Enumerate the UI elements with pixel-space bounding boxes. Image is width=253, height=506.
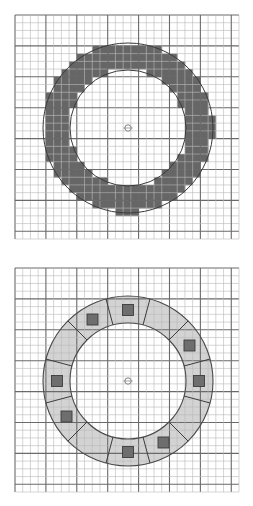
rasterized-annulus-diagram <box>0 0 253 253</box>
segment-square <box>123 447 134 458</box>
annulus-raster-cell <box>108 193 116 201</box>
annulus-raster-cell <box>162 54 170 62</box>
annulus-raster-cell <box>177 85 185 93</box>
annulus-raster-cell <box>162 169 170 177</box>
annulus-raster-cell <box>200 131 208 139</box>
annulus-raster-cell <box>85 69 93 77</box>
annulus-raster-cell <box>154 54 162 62</box>
annulus-raster-cell <box>100 185 108 193</box>
segment-square <box>61 411 72 422</box>
annulus-raster-cell <box>200 139 208 147</box>
annulus-raster-cell <box>108 54 116 62</box>
segment-square <box>52 376 63 387</box>
annulus-raster-cell <box>185 146 193 154</box>
annulus-raster-cell <box>146 185 154 193</box>
annulus-raster-cell <box>123 54 131 62</box>
annulus-raster-cell <box>146 193 154 201</box>
annulus-raster-cell <box>139 185 147 193</box>
panel-top <box>0 0 253 253</box>
annulus-raster-cell <box>61 146 69 154</box>
annulus-raster-cell <box>200 100 208 108</box>
annulus-raster-cell <box>54 108 62 116</box>
annulus-raster-cell <box>185 139 193 147</box>
annulus-raster-cell <box>115 54 123 62</box>
annulus-raster-cell <box>185 169 193 177</box>
annulus-raster-cell <box>200 115 208 123</box>
annulus-raster-cell <box>85 177 93 185</box>
segment-square <box>194 376 205 387</box>
annulus-raster-cell <box>85 185 93 193</box>
annulus-raster-cell <box>108 46 116 54</box>
segmented-annulus-diagram <box>0 253 253 506</box>
annulus-raster-cell <box>54 131 62 139</box>
annulus-raster-cell <box>92 54 100 62</box>
annulus-raster-cell <box>193 115 201 123</box>
annulus-raster-cell <box>169 77 177 85</box>
annulus-raster-cell <box>193 162 201 170</box>
annulus-raster-cell <box>46 123 54 131</box>
annulus-raster-cell <box>193 100 201 108</box>
annulus-raster-cell <box>123 200 131 208</box>
annulus-raster-cell <box>61 162 69 170</box>
annulus-raster-cell <box>162 69 170 77</box>
annulus-raster-cell <box>193 92 201 100</box>
annulus-raster-cell <box>61 100 69 108</box>
annulus-raster-cell <box>69 77 77 85</box>
annulus-raster-cell <box>139 200 147 208</box>
annulus-raster-cell <box>162 61 170 69</box>
annulus-raster-cell <box>162 177 170 185</box>
panel-bottom <box>0 253 253 506</box>
annulus-raster-cell <box>177 162 185 170</box>
annulus-raster-cell <box>139 193 147 201</box>
annulus-raster-cell <box>123 193 131 201</box>
annulus-raster-cell <box>177 154 185 162</box>
annulus-raster-cell <box>146 54 154 62</box>
annulus-raster-cell <box>69 85 77 93</box>
annulus-raster-cell <box>169 169 177 177</box>
annulus-raster-cell <box>77 69 85 77</box>
annulus-raster-cell <box>200 108 208 116</box>
annulus-raster-cell <box>54 100 62 108</box>
annulus-raster-cell <box>61 177 69 185</box>
annulus-raster-cell <box>131 193 139 201</box>
annulus-raster-cell <box>54 115 62 123</box>
annulus-raster-cell <box>69 185 77 193</box>
annulus-raster-cell <box>200 123 208 131</box>
annulus-raster-cell <box>131 54 139 62</box>
annulus-raster-cell <box>46 108 54 116</box>
annulus-raster-cell <box>139 46 147 54</box>
annulus-raster-cell <box>54 146 62 154</box>
annulus-raster-cell <box>193 123 201 131</box>
annulus-raster-cell <box>100 54 108 62</box>
annulus-raster-cell <box>54 92 62 100</box>
figure-stage <box>0 0 253 506</box>
annulus-raster-cell <box>100 61 108 69</box>
annulus-raster-cell <box>193 146 201 154</box>
annulus-raster-cell <box>123 46 131 54</box>
segment-square <box>184 340 195 351</box>
annulus-raster-cell <box>193 131 201 139</box>
annulus-raster-cell <box>77 185 85 193</box>
annulus-raster-cell <box>185 162 193 170</box>
annulus-raster-cell <box>92 193 100 201</box>
annulus-raster-cell <box>46 131 54 139</box>
annulus-raster-cell <box>77 177 85 185</box>
annulus-raster-cell <box>54 123 62 131</box>
annulus-raster-cell <box>154 61 162 69</box>
annulus-raster-cell <box>193 108 201 116</box>
annulus-raster-cell <box>131 46 139 54</box>
annulus-raster-cell <box>193 139 201 147</box>
annulus-raster-cell <box>154 69 162 77</box>
annulus-raster-cell <box>108 200 116 208</box>
annulus-raster-cell <box>61 169 69 177</box>
annulus-raster-cell <box>92 69 100 77</box>
annulus-raster-cell <box>131 200 139 208</box>
annulus-raster-cell <box>69 169 77 177</box>
annulus-raster-cell <box>185 100 193 108</box>
annulus-raster-cell <box>46 139 54 147</box>
annulus-raster-cell <box>146 200 154 208</box>
annulus-raster-cell <box>154 177 162 185</box>
annulus-raster-cell <box>61 92 69 100</box>
annulus-raster-cell <box>61 77 69 85</box>
annulus-raster-cell <box>162 193 170 201</box>
